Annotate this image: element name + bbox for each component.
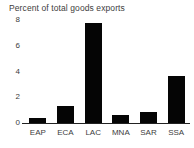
x-axis-line	[22, 123, 190, 124]
y-axis-tick-label: 8	[16, 16, 20, 24]
x-axis-tick-label: ECA	[52, 128, 80, 137]
bar-slot	[140, 20, 157, 123]
y-axis-tick-label: 0	[16, 119, 20, 127]
bar	[112, 115, 129, 123]
bar-slot	[85, 20, 102, 123]
x-axis-tick-labels: EAPECALACMNASARSSA	[24, 126, 190, 146]
bar	[57, 106, 74, 123]
bar-slot	[57, 20, 74, 123]
bar	[140, 112, 157, 123]
x-axis-tick-label: LAC	[79, 128, 107, 137]
x-axis-tick-label: EAP	[24, 128, 52, 137]
bar-slot	[112, 20, 129, 123]
bar	[168, 76, 185, 123]
plot-area	[24, 20, 190, 123]
bar-series	[24, 20, 190, 123]
y-axis-tick-labels: 02468	[0, 0, 24, 148]
x-axis-tick-label: SSA	[162, 128, 190, 137]
bar-slot	[168, 20, 185, 123]
bar-chart-figure: Percent of total goods exports 02468 EAP…	[0, 0, 194, 148]
x-axis-tick-label: SAR	[135, 128, 163, 137]
bar-slot	[29, 20, 46, 123]
y-axis-tick-label: 4	[16, 68, 20, 76]
y-axis-tick-label: 6	[16, 42, 20, 50]
x-axis-tick-label: MNA	[107, 128, 135, 137]
bar	[85, 23, 102, 123]
chart-title: Percent of total goods exports	[9, 3, 125, 13]
y-axis-tick-label: 2	[16, 93, 20, 101]
